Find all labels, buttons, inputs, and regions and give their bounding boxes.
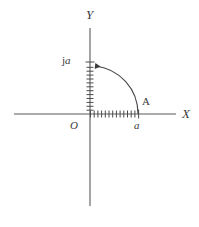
origin-label: O: [70, 120, 78, 131]
diagram-svg: [0, 0, 199, 227]
point-a-label: A: [142, 96, 150, 107]
y-axis-label: Y: [86, 8, 93, 21]
rotation-arc: [95, 66, 138, 114]
imaginary-magnitude-a: a: [65, 54, 71, 66]
x-axis-label: X: [182, 107, 190, 120]
imaginary-ja-label: ja: [62, 55, 71, 66]
point-a-value-label: a: [134, 120, 140, 131]
figure-canvas: Y X O a A ja: [0, 0, 199, 227]
